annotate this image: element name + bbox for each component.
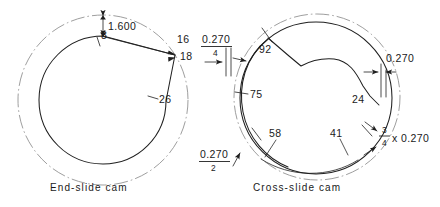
end-cam-rise-arrow-top — [100, 15, 106, 19]
cross-cam-lower-rim-arc — [261, 159, 358, 173]
annotation-half-numerator: 0.270 — [200, 148, 228, 160]
annotation-half-arrow — [233, 153, 240, 166]
annotation-quarter-denominator: 4 — [213, 48, 218, 58]
drawing-sheet: 1.600 8 16 18 26 End-slide cam — [0, 0, 440, 207]
annotation-tq-multiplier: x 0.270 — [392, 132, 429, 144]
annotation-quarter-numerator: 0.270 — [202, 33, 230, 45]
cross-cam-leader-41 — [340, 139, 348, 155]
annotation-lead-three-quarter: 3 4 x 0.270 — [364, 122, 429, 155]
end-cam-chord-8-16 — [103, 37, 175, 56]
cross-cam-label-58: 58 — [269, 127, 281, 139]
end-cam-label-16: 16 — [177, 33, 189, 45]
cross-cam-label-75: 75 — [250, 88, 262, 100]
end-cam-label-8: 8 — [101, 29, 107, 41]
annotation-half-denominator: 2 — [211, 163, 216, 173]
cross-cam-leader-58 — [265, 140, 276, 157]
cross-cam-offset-arc — [241, 39, 288, 167]
annotation-tq-arrow-lower — [364, 147, 376, 155]
end-cam-label-26: 26 — [159, 93, 171, 105]
end-cam-profile — [39, 36, 175, 164]
annotation-lead-quarter: 0.270 4 — [201, 33, 246, 76]
cross-cam-label-41: 41 — [330, 127, 342, 139]
annotation-plain-value: 0.270 — [386, 52, 414, 64]
annotation-tq-arrow-upper — [365, 122, 377, 131]
cross-cam-label-92: 92 — [259, 43, 271, 55]
annotation-lead-half: 0.270 2 — [199, 148, 240, 173]
end-slide-cam-group: 1.600 8 16 18 26 End-slide cam — [18, 15, 192, 193]
end-cam-arrow-16 — [168, 51, 176, 55]
end-cam-rise-value: 1.600 — [108, 20, 136, 32]
annotation-tq-numerator: 3 — [382, 125, 387, 135]
end-cam-tick-26 — [148, 96, 158, 99]
cam-drawing-canvas: 1.600 8 16 18 26 End-slide cam — [0, 0, 440, 207]
cross-slide-cam-group: 92 75 58 41 24 0.270 4 0.270 2 — [199, 14, 429, 193]
end-cam-label-18: 18 — [180, 50, 192, 62]
end-cam-tick-8 — [97, 37, 100, 46]
annotation-quarter-pointer — [233, 58, 246, 61]
end-cam-caption: End-slide cam — [50, 182, 128, 193]
cross-cam-label-24: 24 — [352, 93, 364, 105]
cross-cam-caption: Cross-slide cam — [253, 182, 341, 193]
cross-cam-tick-41-right — [362, 125, 372, 136]
annotation-tq-denominator: 4 — [382, 138, 387, 148]
annotation-lead-plain: 0.270 — [364, 52, 414, 97]
